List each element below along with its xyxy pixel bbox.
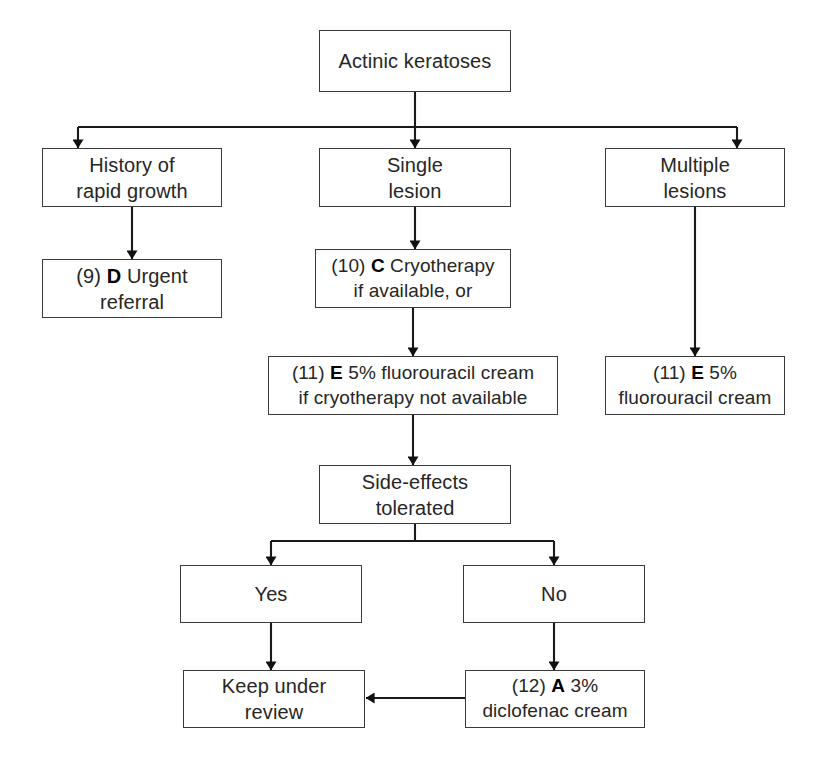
node-label-line2: tolerated (376, 495, 455, 521)
node-label-line2: if cryotherapy not available (299, 386, 528, 411)
node-label-line1: Single (387, 152, 443, 178)
node-no[interactable]: No (463, 565, 645, 623)
node-label-line1: (9) D Urgent (76, 263, 187, 289)
node-urgent-referral[interactable]: (9) D Urgent referral (42, 259, 222, 318)
node-fluorouracil-multiple-lesions[interactable]: (11) E 5% fluorouracil cream (605, 356, 785, 415)
node-keep-under-review[interactable]: Keep under review (183, 670, 365, 728)
node-fluorouracil-if-cryotherapy-unavailable[interactable]: (11) E 5% fluorouracil cream if cryother… (268, 356, 558, 415)
node-diclofenac-cream[interactable]: (12) A 3% diclofenac cream (465, 670, 645, 728)
node-label-text: Cryotherapy (385, 255, 495, 276)
evidence-grade: D (107, 265, 122, 287)
recommendation-ref: (11) (292, 362, 325, 383)
node-side-effects-tolerated[interactable]: Side-effects tolerated (319, 465, 511, 524)
node-label-text: 5% fluorouracil cream (343, 362, 534, 383)
evidence-grade: C (371, 255, 385, 276)
node-label-line2: review (245, 699, 303, 725)
node-label-line1: History of (89, 152, 174, 178)
node-label-text: Urgent (121, 265, 187, 287)
node-label-text: 5% (704, 362, 737, 383)
node-label: Yes (255, 581, 288, 607)
node-label-line2: fluorouracil cream (619, 386, 772, 411)
evidence-grade: E (330, 362, 343, 383)
node-label: Actinic keratoses (339, 48, 492, 74)
node-cryotherapy[interactable]: (10) C Cryotherapy if available, or (315, 249, 511, 308)
node-label-line2: referral (100, 289, 164, 315)
node-label-line1: Side-effects (362, 469, 468, 495)
node-label-line1: (11) E 5% fluorouracil cream (292, 361, 534, 386)
node-single-lesion[interactable]: Single lesion (319, 148, 511, 207)
node-label-line1: (10) C Cryotherapy (331, 254, 494, 279)
node-label-line2: lesion (389, 178, 442, 204)
node-yes[interactable]: Yes (180, 565, 362, 623)
node-label-line2: rapid growth (76, 178, 187, 204)
node-label-line1: (11) E 5% (653, 361, 737, 386)
recommendation-ref: (9) (76, 265, 101, 287)
evidence-grade: E (691, 362, 704, 383)
recommendation-ref: (11) (653, 362, 686, 383)
node-label-line1: Keep under (222, 673, 326, 699)
node-label-line1: (12) A 3% (512, 674, 598, 699)
node-actinic-keratoses[interactable]: Actinic keratoses (319, 30, 511, 92)
node-label-line1: Multiple (660, 152, 730, 178)
node-multiple-lesions[interactable]: Multiple lesions (605, 148, 785, 207)
node-label-line2: if available, or (354, 279, 473, 304)
node-label-line2: diclofenac cream (482, 699, 627, 724)
node-label-line2: lesions (664, 178, 727, 204)
recommendation-ref: (10) (331, 255, 365, 276)
node-history-of-rapid-growth[interactable]: History of rapid growth (42, 148, 222, 207)
evidence-grade: A (551, 675, 565, 696)
recommendation-ref: (12) (512, 675, 546, 696)
node-label: No (541, 581, 567, 607)
flowchart-canvas: Actinic keratoses History of rapid growt… (0, 0, 834, 773)
node-label-text: 3% (565, 675, 598, 696)
